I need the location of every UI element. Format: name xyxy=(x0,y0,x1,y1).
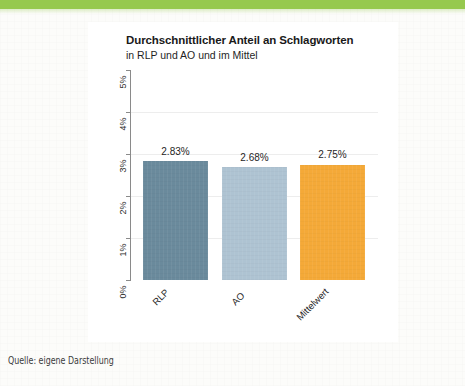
ytick-label-4pct: 4% xyxy=(118,111,128,137)
ytick-label-2pct: 2% xyxy=(118,195,128,221)
bar-texture xyxy=(222,167,287,280)
chart-subtitle: in RLP und AO und im Mittel xyxy=(126,49,258,61)
category-label-ao: AO xyxy=(229,290,246,307)
gridline-4pct xyxy=(131,112,378,113)
page-background: Durchschnittlicher Anteil an Schlagworte… xyxy=(0,0,465,386)
chart-panel: Durchschnittlicher Anteil an Schlagworte… xyxy=(88,22,398,342)
ytick-label-0pct: 0% xyxy=(118,279,128,305)
bar-mittelwert[interactable] xyxy=(300,165,365,281)
ytick-label-3pct: 3% xyxy=(118,153,128,179)
category-label-mittelwert: Mittelwert xyxy=(294,286,331,323)
source-caption: Quelle: eigene Darstellung xyxy=(8,355,114,366)
bar-texture xyxy=(143,161,208,280)
top-accent-band-fade xyxy=(0,9,465,14)
bar-rlp[interactable] xyxy=(143,161,208,280)
category-label-rlp: RLP xyxy=(150,287,171,308)
ytick-label-5pct: 5% xyxy=(118,69,128,95)
bar-value-rlp: 2.83% xyxy=(136,146,216,157)
y-axis-line xyxy=(130,70,131,281)
ytick-label-1pct: 1% xyxy=(118,237,128,263)
chart-title: Durchschnittlicher Anteil an Schlagworte… xyxy=(126,34,353,46)
bar-texture xyxy=(300,165,365,281)
bar-ao[interactable] xyxy=(222,167,287,280)
bar-value-mittelwert: 2.75% xyxy=(293,149,373,160)
bar-value-ao: 2.68% xyxy=(215,152,295,163)
plot-area: 5% 4% 3% 2% 1% 0% 2.83% 2.68% 2.75% RLP … xyxy=(130,70,378,280)
top-accent-band xyxy=(0,0,465,9)
